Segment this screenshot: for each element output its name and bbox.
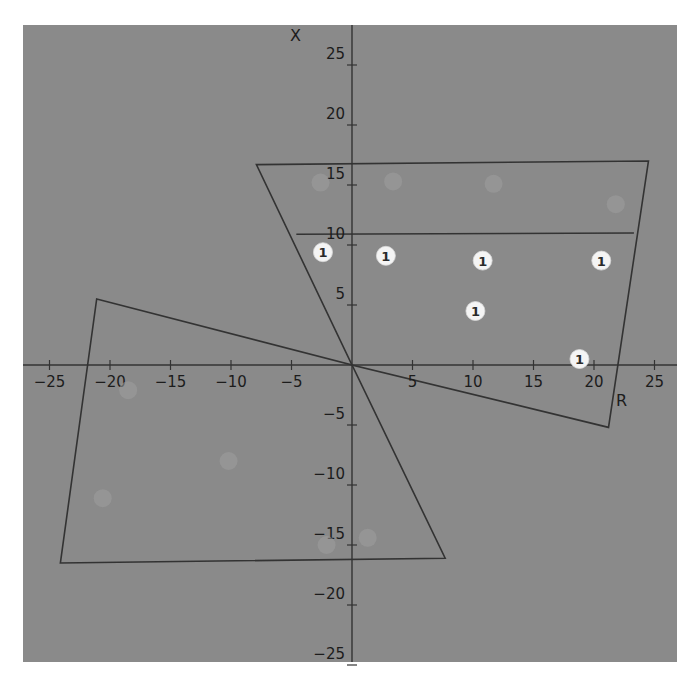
marker-label: 1 — [381, 249, 390, 264]
y-tick-label: 5 — [335, 285, 345, 303]
faint-marker — [485, 175, 503, 193]
lower-left-zone — [60, 299, 445, 563]
data-marker: 1 — [466, 302, 485, 321]
marker-label: 1 — [575, 352, 584, 367]
faint-marker — [607, 195, 625, 213]
y-tick-label: −25 — [313, 645, 345, 663]
x-tick-label: 10 — [463, 373, 482, 391]
x-tick-label: −15 — [155, 373, 187, 391]
marker-label: 1 — [318, 245, 327, 260]
faint-marker — [359, 529, 377, 547]
x-tick-label: 20 — [584, 373, 603, 391]
y-tick-label: −5 — [323, 405, 345, 423]
marker-label: 1 — [597, 254, 606, 269]
faint-marker — [94, 489, 112, 507]
x-tick-label: 25 — [645, 373, 664, 391]
marker-label: 1 — [478, 254, 487, 269]
marker-label: 1 — [471, 304, 480, 319]
zone-shapes — [60, 161, 648, 563]
faint-marker — [220, 452, 238, 470]
y-axis-title: X — [290, 26, 301, 45]
data-marker: 1 — [473, 251, 492, 270]
data-marker: 1 — [313, 243, 332, 262]
axes: −25−20−15−10−5510152025252015105−5−10−15… — [23, 25, 677, 665]
x-tick-label: −10 — [215, 373, 247, 391]
x-axis-title: R — [616, 391, 627, 410]
y-tick-label: −20 — [313, 585, 345, 603]
y-tick-label: 20 — [326, 105, 345, 123]
x-tick-label: 5 — [408, 373, 418, 391]
x-tick-label: 15 — [524, 373, 543, 391]
x-tick-label: −5 — [280, 373, 302, 391]
data-marker: 1 — [592, 251, 611, 270]
data-marker: 1 — [376, 246, 395, 265]
faint-marker — [119, 381, 137, 399]
faint-marker — [312, 174, 330, 192]
y-tick-label: −10 — [313, 465, 345, 483]
y-tick-label: 25 — [326, 45, 345, 63]
inner-boundary-line — [296, 233, 634, 234]
faint-markers — [94, 172, 625, 554]
data-markers: 111111 — [313, 243, 610, 369]
data-marker: 1 — [570, 350, 589, 369]
faint-marker — [318, 536, 336, 554]
x-tick-label: −25 — [34, 373, 66, 391]
y-tick-label: 10 — [326, 225, 345, 243]
rx-impedance-chart: −25−20−15−10−5510152025252015105−5−10−15… — [0, 0, 700, 688]
faint-marker — [384, 172, 402, 190]
